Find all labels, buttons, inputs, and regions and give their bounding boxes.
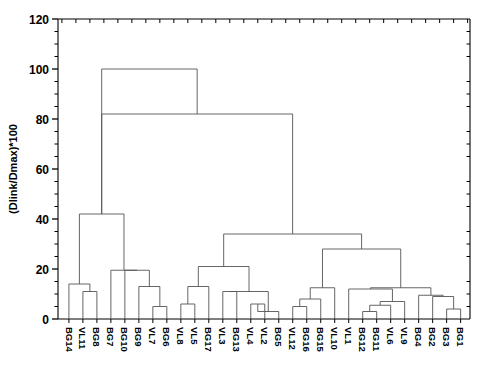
y-tick-label: 0 — [42, 313, 49, 327]
leaf-label: VL8 — [175, 327, 186, 344]
leaf-label: BG1 — [455, 327, 466, 347]
dendrogram-chart: 020406080100120BG14VL11BG8BG7BG10BG9VL7B… — [0, 0, 479, 370]
y-tick-label: 100 — [29, 63, 49, 77]
leaf-label: BG8 — [91, 327, 102, 347]
y-tick-label: 60 — [36, 163, 50, 177]
y-tick-label: 120 — [29, 13, 49, 27]
leaf-label: VL12 — [287, 327, 298, 350]
x-axis-ticks — [69, 319, 461, 323]
leaf-label: VL2 — [259, 327, 270, 344]
leaf-label: VL1 — [343, 327, 354, 345]
leaf-label: VL5 — [189, 327, 200, 345]
y-axis-ticks: 020406080100120 — [29, 13, 470, 327]
leaf-label: BG10 — [119, 327, 130, 352]
leaf-label: BG12 — [357, 327, 368, 352]
leaf-label: BG16 — [301, 327, 312, 352]
plot-frame — [58, 19, 470, 319]
leaf-label: VL11 — [78, 327, 89, 350]
leaf-label: VL6 — [385, 327, 396, 344]
leaf-label: VL3 — [217, 327, 228, 344]
y-tick-label: 20 — [36, 263, 50, 277]
leaf-label: BG3 — [441, 327, 452, 347]
y-tick-label: 40 — [36, 213, 50, 227]
leaf-label: VL4 — [245, 327, 256, 345]
dendrogram-svg: 020406080100120BG14VL11BG8BG7BG10BG9VL7B… — [0, 0, 479, 370]
top-tick-rail — [62, 19, 468, 23]
y-axis-title: (Dlink/Dmax)*100 — [7, 124, 19, 214]
x-axis-labels: BG14VL11BG8BG7BG10BG9VL7BG6VL8VL5BG17VL3… — [64, 327, 467, 353]
leaf-label: BG6 — [161, 327, 172, 347]
leaf-label: VL10 — [329, 327, 340, 350]
leaf-label: BG13 — [231, 327, 242, 352]
leaf-label: BG17 — [203, 327, 214, 352]
leaf-label: BG9 — [133, 327, 144, 347]
leaf-label: VL9 — [399, 327, 410, 344]
leaf-label: BG15 — [315, 327, 326, 353]
leaf-label: BG11 — [371, 327, 382, 352]
leaf-label: VL7 — [147, 327, 158, 344]
y-tick-label: 80 — [36, 113, 50, 127]
leaf-label: BG14 — [64, 327, 75, 353]
dendrogram-links — [69, 69, 461, 319]
leaf-label: BG7 — [105, 327, 116, 347]
leaf-label: BG5 — [273, 327, 284, 347]
leaf-label: BG2 — [427, 327, 438, 347]
leaf-label: BG4 — [413, 327, 424, 347]
